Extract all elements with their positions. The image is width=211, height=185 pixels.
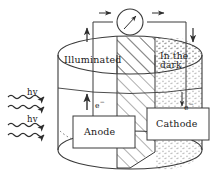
photon-label-2: hv	[27, 115, 38, 124]
cathode-label: Cathode	[156, 119, 198, 129]
anode-label: Anode	[84, 127, 115, 137]
photon-arrows-group	[8, 95, 44, 136]
wavy-arrow-icon-2	[8, 105, 44, 108]
in-the-dark-line2: dark	[160, 61, 188, 70]
wavy-arrow-icon-4	[8, 133, 44, 136]
meter-gauge-icon	[117, 9, 143, 35]
electron-label-left-sup: −	[100, 98, 105, 105]
electron-label-left: e−	[95, 99, 105, 109]
illuminated-label: Illuminated	[64, 55, 122, 65]
electron-label-right-sup: −	[189, 100, 194, 107]
in-the-dark-label: In the dark	[160, 52, 188, 71]
wavy-arrow-icon-1	[8, 95, 44, 98]
figure-canvas: Illuminated In the dark Anode Cathode hv…	[0, 0, 211, 185]
photon-label-1: hv	[27, 88, 38, 97]
wavy-arrow-icon-3	[8, 123, 44, 126]
electron-label-right: e−	[184, 101, 194, 111]
